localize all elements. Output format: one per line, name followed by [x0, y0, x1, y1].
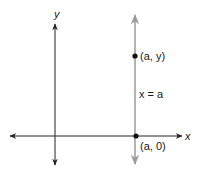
line-label-x-equals-a: x = a	[139, 88, 164, 100]
y-axis-label: y	[53, 8, 61, 20]
point-a-y	[132, 53, 137, 58]
coordinate-diagram: y x (a, y) x = a (a, 0)	[0, 0, 198, 179]
point-a-0	[133, 133, 138, 138]
x-axis-label: x	[184, 130, 191, 142]
point-a-0-label: (a, 0)	[140, 140, 166, 152]
point-a-y-label: (a, y)	[140, 50, 165, 62]
